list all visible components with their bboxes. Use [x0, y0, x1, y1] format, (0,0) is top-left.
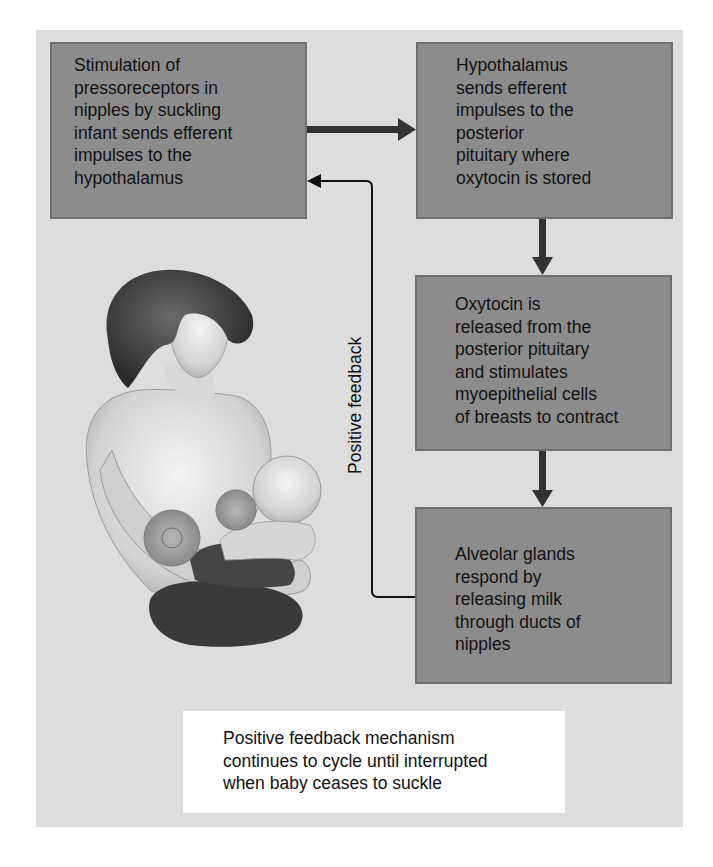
caption-box: Positive feedback mechanism continues to… — [183, 711, 565, 813]
arrow-right-icon — [307, 118, 416, 141]
arrow-down-icon — [532, 219, 553, 275]
arrow-down-icon — [532, 451, 553, 507]
positive-feedback-label: Positive feedback — [344, 315, 366, 495]
caption-text: Positive feedback mechanism continues to… — [223, 727, 488, 795]
